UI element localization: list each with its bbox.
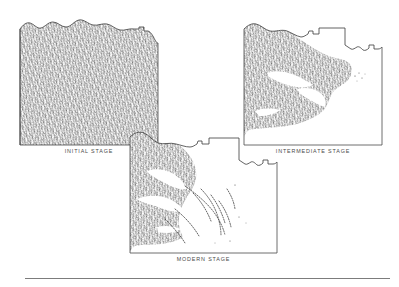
intermediate-stage-residual-specks [354, 73, 365, 82]
panel-modern-stage: MODERN STAGE [127, 123, 280, 265]
bottom-horizontal-rule [25, 278, 390, 279]
stage-diagram-figure: INITIAL STAGE [0, 0, 399, 287]
panel-modern-stage-caption: MODERN STAGE [127, 256, 280, 262]
panel-modern-stage-map [127, 123, 280, 265]
modern-stage-specks [215, 184, 247, 243]
